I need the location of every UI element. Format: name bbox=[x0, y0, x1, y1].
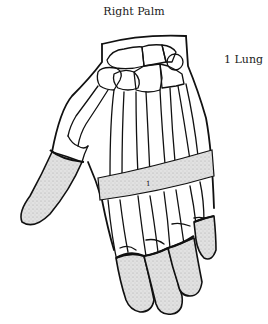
band-marker: 1 bbox=[146, 180, 150, 188]
palm-band-region bbox=[98, 150, 214, 200]
hand-illustration: 1 bbox=[0, 0, 268, 324]
carpal-bones bbox=[97, 45, 184, 92]
thumb-tip-region bbox=[21, 152, 82, 225]
